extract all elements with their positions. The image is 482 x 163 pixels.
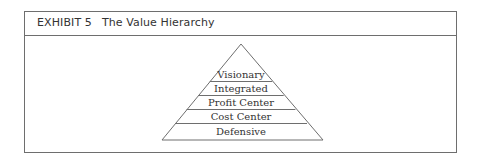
level-integrated: Integrated bbox=[214, 83, 268, 94]
level-profit-center: Profit Center bbox=[208, 97, 274, 108]
level-visionary: Visionary bbox=[216, 69, 265, 80]
level-defensive: Defensive bbox=[216, 126, 266, 137]
level-cost-center: Cost Center bbox=[211, 111, 272, 122]
value-hierarchy-pyramid: Visionary Integrated Profit Center Cost … bbox=[0, 0, 482, 163]
